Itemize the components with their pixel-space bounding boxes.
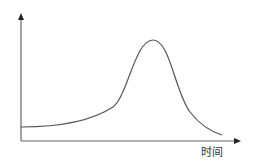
x-axis-label: 时间 xyxy=(201,143,223,159)
data-curve xyxy=(21,40,222,135)
x-axis-arrow-icon xyxy=(234,138,241,144)
y-axis-arrow-icon xyxy=(18,13,24,20)
chart-canvas xyxy=(0,0,254,165)
